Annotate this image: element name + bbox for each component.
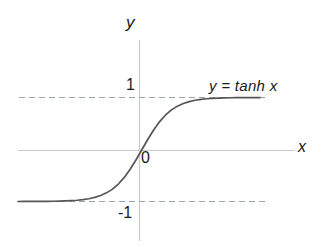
y-axis-label: y (126, 14, 135, 31)
plot-canvas (0, 0, 325, 247)
x-axis-label: x (298, 139, 306, 155)
origin-label: 0 (141, 150, 150, 166)
curve-equation-label: y = tanh x (209, 78, 277, 93)
y-tick-label-1: 1 (126, 77, 135, 93)
tanh-function-plot: y x 1 -1 0 y = tanh x (0, 0, 325, 247)
y-tick-label-negative-1: -1 (118, 205, 132, 221)
